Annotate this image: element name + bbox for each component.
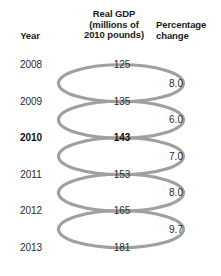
real-gdp-value: 165 bbox=[98, 205, 146, 217]
percentage-change-value: 8.0 bbox=[158, 78, 194, 90]
year-value: 2013 bbox=[8, 242, 54, 254]
real-gdp-value: 135 bbox=[98, 96, 146, 108]
real-gdp-value: 181 bbox=[98, 242, 146, 254]
real-gdp-value: 153 bbox=[98, 169, 146, 181]
percentage-change-value: 8.0 bbox=[158, 187, 194, 199]
percentage-change-value: 9.7 bbox=[158, 224, 194, 236]
gdp-table-figure: Year Real GDP (millions of 2010 pounds) … bbox=[0, 0, 221, 276]
year-value: 2011 bbox=[8, 169, 54, 181]
percentage-change-value: 7.0 bbox=[158, 151, 194, 163]
year-value: 2009 bbox=[8, 96, 54, 108]
year-value: 2010 bbox=[8, 132, 54, 144]
percentage-change-value: 6.0 bbox=[158, 114, 194, 126]
year-value: 2012 bbox=[8, 205, 54, 217]
year-value: 2008 bbox=[8, 59, 54, 71]
real-gdp-value: 125 bbox=[98, 59, 146, 71]
real-gdp-value: 143 bbox=[98, 132, 146, 144]
